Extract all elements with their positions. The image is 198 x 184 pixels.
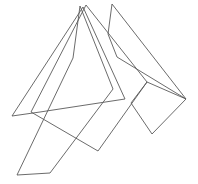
canvas-background	[0, 0, 198, 184]
polygon-line-drawing	[0, 0, 198, 184]
figure-canvas	[0, 0, 198, 184]
